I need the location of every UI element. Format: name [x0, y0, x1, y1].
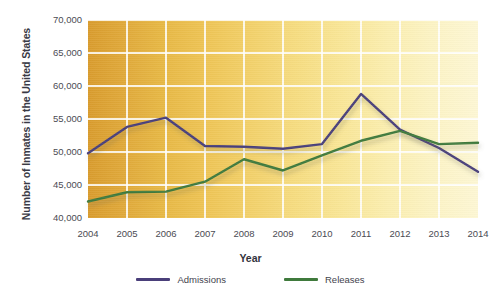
chart-legend: AdmissionsReleases: [0, 274, 501, 285]
y-axis-tick-label: 50,000: [26, 146, 82, 157]
y-axis-tick-label: 60,000: [26, 80, 82, 91]
x-axis-tick-label: 2013: [419, 228, 459, 239]
x-axis-tick-label: 2008: [224, 228, 264, 239]
legend-item-releases[interactable]: Releases: [284, 274, 365, 285]
x-axis-title: Year: [0, 252, 501, 264]
series-lines: [88, 20, 478, 218]
x-axis-tick-label: 2005: [107, 228, 147, 239]
series-line-admissions: [88, 94, 478, 172]
figure-caption: [8, 297, 493, 304]
y-axis-tick-label: 55,000: [26, 113, 82, 124]
y-axis-tick-label: 45,000: [26, 179, 82, 190]
x-axis-tick-label: 2010: [302, 228, 342, 239]
x-axis-tick-label: 2006: [146, 228, 186, 239]
x-axis-tick-label: 2011: [341, 228, 381, 239]
legend-item-admissions[interactable]: Admissions: [136, 274, 226, 285]
legend-swatch: [136, 278, 170, 281]
legend-label: Admissions: [177, 274, 226, 285]
chart-figure: Number of Inmates in the United States 4…: [0, 0, 501, 304]
plot-area: [88, 20, 478, 218]
x-axis-tick-label: 2007: [185, 228, 225, 239]
x-axis-tick-label: 2009: [263, 228, 303, 239]
y-axis-tick-label: 70,000: [26, 14, 82, 25]
y-axis-tick-label: 40,000: [26, 212, 82, 223]
y-axis-title: Number of Inmates in the United States: [20, 4, 32, 244]
y-axis-tick-label: 65,000: [26, 47, 82, 58]
legend-label: Releases: [325, 274, 365, 285]
legend-swatch: [284, 278, 318, 281]
x-axis-tick-label: 2014: [458, 228, 498, 239]
x-axis-tick-label: 2004: [68, 228, 108, 239]
x-axis-tick-label: 2012: [380, 228, 420, 239]
series-line-releases: [88, 131, 478, 202]
